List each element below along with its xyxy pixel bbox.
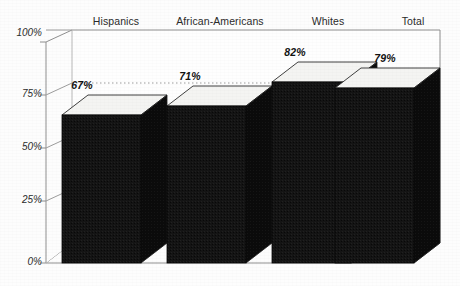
ytick-label-100: 100% [4, 27, 42, 38]
category-label-african-americans: African-Americans [155, 15, 285, 27]
bar-hispanics[interactable] [62, 95, 167, 263]
category-label-hispanics: Hispanics [66, 15, 166, 27]
ytick-label-75: 75% [4, 88, 42, 99]
ytick-label-0: 0% [4, 256, 42, 267]
ytick-label-50: 50% [4, 141, 42, 152]
bar-african-americans[interactable] [167, 86, 272, 263]
ytick-label-25: 25% [4, 194, 42, 205]
bar-chart: 100% 75% 50% 25% 0% Hispanics African-Am… [0, 0, 460, 286]
value-label-african-americans: 71% [160, 70, 220, 82]
bar-total[interactable] [335, 68, 440, 263]
category-label-whites: Whites [278, 15, 378, 27]
chart-canvas [0, 0, 460, 286]
value-label-total: 79% [355, 52, 415, 64]
category-label-total: Total [368, 15, 458, 27]
value-label-hispanics: 67% [52, 79, 112, 91]
value-label-whites: 82% [265, 46, 325, 58]
